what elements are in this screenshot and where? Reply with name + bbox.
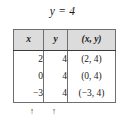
xy-value-table: x y (x, y) 2 4 (2, 4) 0 4 (0, 4) −3 4 (−… — [13, 29, 116, 103]
cell-xy-pair: (−3, 4) — [68, 85, 116, 103]
cell-x-value: 2 — [14, 51, 44, 69]
cell-xy-pair: (0, 4) — [68, 68, 116, 85]
table-row: 2 4 (2, 4) — [14, 51, 116, 69]
column-header-x: x — [14, 30, 44, 51]
column-header-xy-pair: (x, y) — [68, 30, 116, 51]
cell-x-value: 0 — [14, 68, 44, 85]
cell-y-value: 4 — [44, 51, 68, 69]
up-arrow-icon-y-column: ↑ — [49, 107, 59, 116]
table-body: 2 4 (2, 4) 0 4 (0, 4) −3 4 (−3, 4) — [14, 51, 116, 103]
table-header: x y (x, y) — [14, 30, 116, 51]
table-header-row: x y (x, y) — [14, 30, 116, 51]
equation-title: y = 4 — [0, 5, 125, 17]
up-arrow-icon-x-column: ↑ — [27, 107, 37, 116]
cell-x-value: −3 — [14, 85, 44, 103]
column-header-y: y — [44, 30, 68, 51]
cell-y-value: 4 — [44, 68, 68, 85]
cell-y-value: 4 — [44, 85, 68, 103]
table-row: −3 4 (−3, 4) — [14, 85, 116, 103]
equation-table-figure: y = 4 x y (x, y) 2 4 (2, 4) 0 4 (0, 4) −… — [0, 0, 125, 125]
table-row: 0 4 (0, 4) — [14, 68, 116, 85]
cell-xy-pair: (2, 4) — [68, 51, 116, 69]
